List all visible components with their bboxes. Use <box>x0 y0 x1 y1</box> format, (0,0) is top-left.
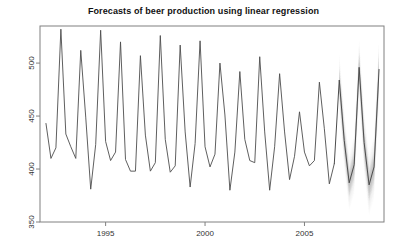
x-axis-ticks: 199520002005 <box>97 222 314 238</box>
x-tick-label: 1995 <box>97 229 115 238</box>
chart-container: Forecasts of beer production using linea… <box>0 0 407 249</box>
y-tick-label: 450 <box>27 109 36 123</box>
x-tick-label: 2000 <box>196 229 214 238</box>
chart-plot-area: 199520002005 350400450500 <box>0 0 407 249</box>
x-tick-label: 2005 <box>296 229 314 238</box>
historical-series-line <box>46 29 334 190</box>
axis-frame <box>40 26 384 222</box>
y-tick-label: 350 <box>27 215 36 229</box>
y-tick-label: 400 <box>27 162 36 176</box>
y-tick-label: 500 <box>27 56 36 70</box>
y-axis-ticks: 350400450500 <box>27 56 40 229</box>
